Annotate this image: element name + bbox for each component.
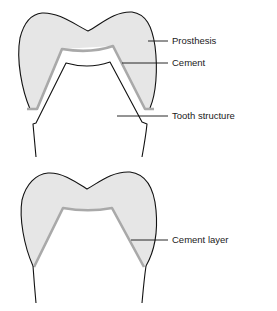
bottom-panel <box>21 172 168 303</box>
tooth-root-outline-bottom <box>33 266 146 303</box>
label-tooth-structure: Tooth structure <box>172 111 235 121</box>
label-prosthesis: Prosthesis <box>172 36 216 46</box>
top-panel <box>19 12 168 157</box>
dental-crown-diagram: Prosthesis Cement Tooth structure Cement… <box>0 0 277 311</box>
label-cement-layer: Cement layer <box>172 235 229 245</box>
label-cement: Cement <box>172 58 205 68</box>
prosthesis-crown-top <box>19 12 157 109</box>
